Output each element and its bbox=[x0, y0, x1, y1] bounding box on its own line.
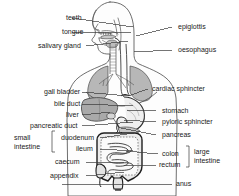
label-stomach: stomach bbox=[162, 107, 188, 115]
label-anus: anus bbox=[176, 180, 191, 188]
leader-line-epiglottis bbox=[136, 27, 172, 36]
label-appendix: appendix bbox=[50, 172, 78, 180]
label-salivary-gland: salivary gland bbox=[38, 42, 81, 50]
label-rectum: rectum bbox=[159, 161, 180, 169]
label-gall-bladder: gall bladder bbox=[44, 88, 80, 96]
label-small-intestine-line: small bbox=[14, 134, 40, 143]
label-caecum: caecum bbox=[55, 158, 80, 166]
gall-bladder-organ bbox=[107, 113, 115, 119]
leader-line-oesophagus bbox=[134, 50, 172, 52]
digestive-system-figure: teethtonguesalivary glandgall bladderbil… bbox=[0, 0, 239, 196]
label-ileum: ileum bbox=[76, 145, 93, 153]
brace-small-intestine bbox=[52, 131, 55, 152]
rectum-organ bbox=[113, 178, 123, 189]
label-bile-duct: bile duct bbox=[54, 100, 80, 108]
label-pyloric-sphincter: pyloric sphincter bbox=[162, 118, 213, 126]
label-oesophagus: oesophagus bbox=[178, 46, 216, 54]
label-small-intestine-line: intestine bbox=[14, 143, 40, 152]
label-liver: liver bbox=[66, 111, 79, 119]
label-colon: colon bbox=[162, 150, 179, 158]
label-large-intestine: largeintestine bbox=[194, 148, 220, 165]
label-small-intestine: smallintestine bbox=[14, 134, 40, 151]
label-cardiac-sphincter: cardiac sphincter bbox=[152, 85, 205, 93]
label-epiglottis: epiglottis bbox=[178, 23, 206, 31]
caecum-organ bbox=[96, 164, 106, 178]
label-pancreatic-duct: pancreatic duct bbox=[30, 122, 77, 130]
label-teeth: teeth bbox=[66, 14, 82, 22]
label-tongue: tongue bbox=[62, 28, 83, 36]
label-large-intestine-line: large bbox=[194, 148, 220, 157]
label-large-intestine-line: intestine bbox=[194, 157, 220, 166]
label-duodenum: duodenum bbox=[61, 134, 94, 142]
brace-large-intestine bbox=[186, 146, 189, 167]
label-pancreas: pancreas bbox=[162, 131, 191, 139]
